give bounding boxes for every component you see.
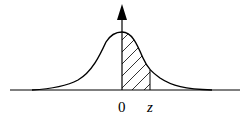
z-label: z [147, 100, 153, 115]
origin-label: 0 [118, 100, 126, 115]
arrow-up-icon [117, 4, 127, 20]
